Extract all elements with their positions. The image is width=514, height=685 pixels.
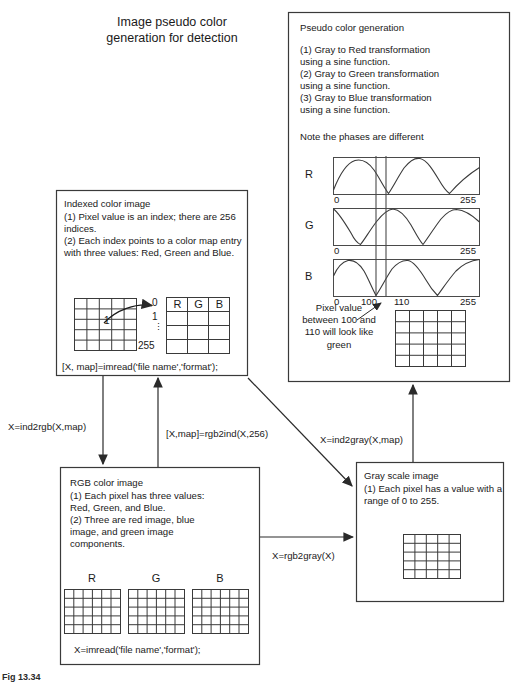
colormap-index-0: 0 <box>152 297 158 308</box>
gray-image-grid <box>404 535 461 579</box>
pseudo-color-swatch-grid <box>396 311 466 367</box>
chart-b-tick-255: 255 <box>460 296 476 307</box>
figure-title-line2: generation for detection <box>62 30 282 46</box>
chart-b-tick-110: 110 <box>394 296 409 307</box>
pseudo-color-panel-note: Note the phases are different <box>300 131 424 142</box>
rgb-channel-label-b: B <box>210 572 230 584</box>
rgb-channel-label-r: R <box>82 572 102 584</box>
indexed-panel-code: [X, map]=imread('file name','format'); <box>62 361 218 372</box>
figure-title-line1: Image pseudo color <box>62 14 282 30</box>
rgb-channel-grid-r <box>65 590 121 634</box>
chart-g-label: G <box>305 219 314 231</box>
edge-label-rgb2ind: [X,map]=rgb2ind(X,256) <box>166 428 268 439</box>
chart-b-label: B <box>305 270 312 282</box>
edge-label-rgb2gray: X=rgb2gray(X) <box>272 550 335 561</box>
indexed-panel-body: (1) Pixel value is an index; there are 2… <box>64 211 244 259</box>
figure-title: Image pseudo color generation for detect… <box>62 14 282 46</box>
rgb-panel-body: (1) Each pixel has three values: Red, Gr… <box>70 490 256 550</box>
colormap-header-r: R <box>167 298 188 310</box>
colormap-index-ellipsis: ⋮ <box>154 322 163 332</box>
colormap-index-1: 1 <box>152 311 158 322</box>
edge-label-ind2gray: X=ind2gray(X,map) <box>320 434 403 445</box>
chart-r-tick-255: 255 <box>460 194 476 205</box>
rgb-channel-grid-b <box>193 590 249 634</box>
chart-g-tick-0: 0 <box>334 245 339 256</box>
colormap-header-g: G <box>188 298 209 310</box>
rgb-channel-label-g: G <box>146 572 166 584</box>
rgb-panel-title: RGB color image <box>70 477 143 488</box>
gray-panel-title: Gray scale image <box>364 470 439 481</box>
edge-label-ind2rgb: X=ind2rgb(X,map) <box>8 421 86 432</box>
colormap-header-b: B <box>209 298 230 310</box>
colormap-index-255: 255 <box>138 340 155 351</box>
pixel-value-note-text: Pixel value between 100 and 110 will loo… <box>302 302 376 350</box>
rgb-panel-code: X=imread('file name','format'); <box>74 644 201 655</box>
indexed-panel-title: Indexed color image <box>64 198 150 209</box>
chart-r-tick-0: 0 <box>334 194 339 205</box>
pseudo-color-panel-steps: (1) Gray to Red transformation using a s… <box>300 44 500 117</box>
gray-panel-body: (1) Each pixel has a value with a range … <box>364 483 504 507</box>
chart-g-tick-255: 255 <box>460 245 476 256</box>
pseudo-color-panel-title: Pseudo color generation <box>300 22 404 33</box>
indexed-pixel-value: 1 <box>104 315 110 326</box>
rgb-channel-grid-g <box>129 590 185 634</box>
chart-r-label: R <box>305 168 313 180</box>
pixel-value-note: Pixel value between 100 and 110 will loo… <box>296 302 382 351</box>
figure-caption: Fig 13.34 <box>2 672 41 682</box>
